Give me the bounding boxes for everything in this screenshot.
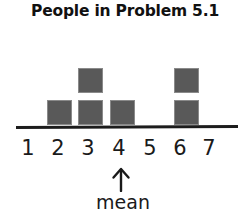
dot-plot-chart: 1234567 mean <box>0 0 250 218</box>
axis-tick-label-4: 4 <box>106 135 132 161</box>
axis-tick-label-1: 1 <box>15 135 41 161</box>
mean-label: mean <box>73 190 173 214</box>
axis-tick-label-7: 7 <box>196 135 222 161</box>
data-square <box>78 100 103 125</box>
up-arrow-icon <box>106 166 136 192</box>
data-square <box>174 100 199 125</box>
axis-tick-label-5: 5 <box>137 135 163 161</box>
data-square <box>110 100 135 125</box>
horizontal-axis-line <box>16 125 238 129</box>
axis-tick-label-3: 3 <box>75 135 101 161</box>
axis-tick-label-2: 2 <box>45 135 71 161</box>
axis-tick-label-6: 6 <box>167 135 193 161</box>
data-square <box>78 68 103 93</box>
data-square <box>174 68 199 93</box>
data-square <box>47 100 72 125</box>
